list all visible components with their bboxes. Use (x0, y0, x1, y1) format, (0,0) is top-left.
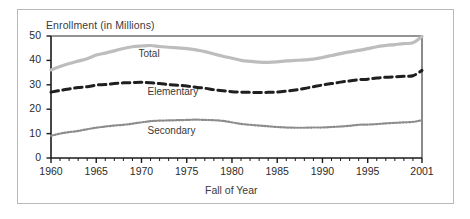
x-tick-label: 1975 (163, 165, 211, 177)
x-tick-label: 2001 (398, 165, 446, 177)
y-tick-label: 40 (15, 53, 41, 65)
x-tick-label: 1995 (344, 165, 392, 177)
x-tick-label: 1980 (208, 165, 256, 177)
y-tick-label: 30 (15, 78, 41, 90)
series-line-secondary (51, 120, 422, 136)
series-label-elementary: Elementary (148, 86, 199, 97)
series-line-elementary (51, 70, 422, 92)
series-line-total (51, 36, 422, 69)
plot-area (0, 0, 470, 219)
x-tick-label: 1970 (117, 165, 165, 177)
y-tick-label: 20 (15, 102, 41, 114)
y-tick-label: 10 (15, 127, 41, 139)
x-tick-label: 1965 (72, 165, 120, 177)
x-tick-label: 1960 (27, 165, 75, 177)
y-tick-label: 50 (15, 29, 41, 41)
x-tick-label: 1985 (253, 165, 301, 177)
x-tick-label: 1990 (298, 165, 346, 177)
series-label-secondary: Secondary (148, 125, 196, 136)
y-tick-label: 0 (15, 151, 41, 163)
series-label-total: Total (139, 48, 160, 59)
chart-figure: Enrollment (in Millions) Fall of Year 01… (0, 0, 470, 219)
